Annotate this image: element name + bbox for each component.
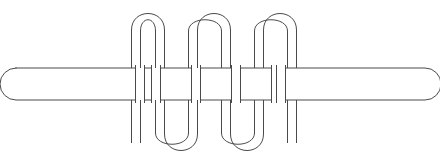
wire-front-band <box>136 65 145 103</box>
coil-diagram <box>0 0 440 164</box>
rod <box>0 68 440 100</box>
rod-body <box>0 68 440 100</box>
wire-front-band <box>192 65 201 103</box>
wire-front-band <box>277 65 286 103</box>
coil-figure-container: Wire coiled around a cylindrical rod <box>0 0 440 164</box>
wire-front-band <box>232 65 241 103</box>
wire-front-band <box>152 65 161 103</box>
